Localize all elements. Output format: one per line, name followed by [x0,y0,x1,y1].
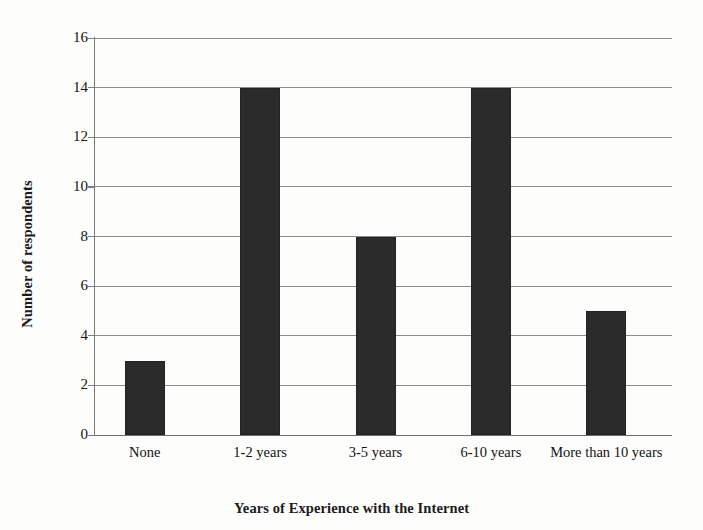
y-axis-tick [88,435,95,436]
y-axis-tick-label: 10 [48,179,88,194]
y-axis-tick [88,186,95,187]
bar [471,88,511,435]
y-axis-tick-label: 12 [48,129,88,144]
bar [586,311,626,435]
gridline [95,137,672,138]
x-axis-category-label: 6-10 years [434,443,548,462]
bar [240,88,280,435]
plot-area [95,38,672,435]
x-axis-category-label: 1-2 years [203,443,317,462]
y-axis-tick [88,335,95,336]
gridline [95,87,672,88]
x-axis-category-label: None [88,443,202,462]
y-axis-tick-label: 8 [48,229,88,244]
y-axis-tick-label: 6 [48,278,88,293]
y-axis-tick-label: 4 [48,328,88,343]
gridline [95,186,672,187]
y-axis-tick [88,236,95,237]
bar [125,361,165,435]
x-axis-category-label: 3-5 years [319,443,433,462]
bar [356,237,396,436]
x-axis-title: Years of Experience with the Internet [0,500,703,517]
y-axis-tick-label: 16 [48,30,88,45]
y-axis-tick-labels: 1614121086420 [40,38,88,435]
y-axis-tick [88,87,95,88]
bar-chart: Number of respondents 1614121086420 None… [0,0,703,530]
y-axis-tick-label: 2 [48,377,88,392]
y-axis-title: Number of respondents [10,54,44,454]
y-axis-tick [88,385,95,386]
x-axis-category-labels: None1-2 years3-5 years6-10 yearsMore tha… [95,443,672,495]
gridline [95,38,672,39]
x-axis-category-label: More than 10 years [549,443,663,462]
y-axis-tick [88,286,95,287]
y-axis-tick-label: 14 [48,80,88,95]
y-axis-tick [88,38,95,39]
y-axis-tick-label: 0 [48,427,88,442]
y-axis-tick [88,137,95,138]
